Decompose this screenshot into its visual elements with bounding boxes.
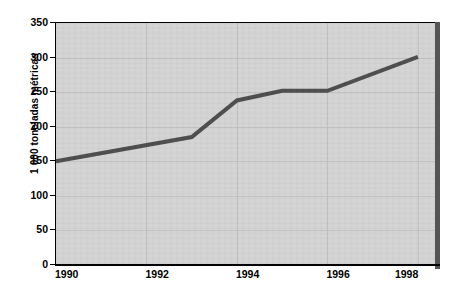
plot-right-edge-shadow <box>435 22 440 269</box>
x-tick-label: 1994 <box>236 268 259 280</box>
line-chart: 1 000 toneladas métricas 350300250200150… <box>0 0 453 291</box>
x-tick-label: 1998 <box>395 268 418 280</box>
y-tick-label: 300 <box>8 52 48 62</box>
y-tick-mark <box>50 229 55 230</box>
y-tick-label: 50 <box>8 224 48 234</box>
x-tick-label: 1996 <box>326 268 349 280</box>
y-tick-mark <box>50 126 55 127</box>
y-tick-label: 150 <box>8 155 48 165</box>
y-tick-mark <box>50 22 55 23</box>
y-tick-mark <box>50 57 55 58</box>
x-tick-label: 1990 <box>55 268 78 280</box>
y-tick-mark <box>50 195 55 196</box>
plot-area <box>55 22 435 264</box>
y-tick-label: 350 <box>8 17 48 27</box>
data-series-line <box>56 23 436 265</box>
y-tick-mark <box>50 91 55 92</box>
y-tick-label: 250 <box>8 86 48 96</box>
x-tick-label: 1992 <box>145 268 168 280</box>
x-axis-line <box>55 264 440 266</box>
y-tick-label: 0 <box>8 259 48 269</box>
y-tick-label: 100 <box>8 190 48 200</box>
y-axis-tick-labels: 350300250200150100500 <box>8 0 48 291</box>
y-tick-mark <box>50 264 55 265</box>
y-tick-label: 200 <box>8 121 48 131</box>
series-polyline <box>56 57 418 161</box>
y-tick-mark <box>50 160 55 161</box>
